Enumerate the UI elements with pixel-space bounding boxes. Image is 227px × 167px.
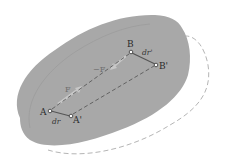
label-force-neg-F: −F (93, 65, 106, 74)
label-A: A (39, 107, 47, 117)
label-B: B (127, 39, 134, 49)
label-A-prime: A' (72, 115, 82, 125)
rigid-body-diagram: A A' B B' F −F dr dr' (0, 0, 227, 167)
label-dr-B: dr' (142, 48, 152, 57)
label-B-prime: B' (159, 61, 168, 71)
point-B (129, 50, 133, 54)
point-A (48, 109, 52, 113)
label-dr-A: dr (52, 117, 61, 126)
label-force-F: F (65, 85, 71, 94)
rigid-body (17, 15, 190, 145)
point-B-prime (154, 63, 158, 67)
